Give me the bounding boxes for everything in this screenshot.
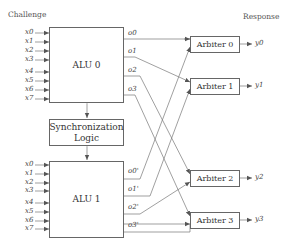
alu1-box: ALU 1 bbox=[49, 161, 124, 238]
alu1-input-x0: x0 bbox=[25, 161, 33, 168]
alu1-output-o3p: o3' bbox=[128, 222, 139, 229]
alu0-input-x1: x1 bbox=[25, 38, 33, 45]
arbiter-1: Arbiter 1 bbox=[190, 78, 240, 95]
arbiter-0: Arbiter 0 bbox=[190, 36, 240, 53]
sync-label-line1: Synchronization bbox=[49, 122, 123, 133]
sync-logic-box: Synchronization Logic bbox=[49, 119, 124, 146]
alu1-input-x1: x1 bbox=[25, 170, 33, 177]
alu1-input-x5: x5 bbox=[25, 208, 33, 215]
wiring bbox=[0, 0, 289, 250]
alu1-input-x6: x6 bbox=[25, 217, 33, 224]
alu1-input-x3: x3 bbox=[25, 187, 33, 194]
alu0-input-x6: x6 bbox=[25, 86, 33, 93]
response-y2: y2 bbox=[255, 174, 263, 181]
alu0-input-x2: x2 bbox=[25, 47, 33, 54]
alu1-input-x2: x2 bbox=[25, 179, 33, 186]
alu0-box: ALU 0 bbox=[49, 27, 124, 103]
sync-label-line2: Logic bbox=[74, 133, 99, 144]
response-header: Response bbox=[243, 12, 279, 21]
response-y0: y0 bbox=[255, 40, 263, 47]
alu0-output-o1: o1 bbox=[128, 48, 137, 55]
alu0-input-x4: x4 bbox=[25, 68, 33, 75]
alu1-label: ALU 1 bbox=[72, 194, 100, 205]
alu0-input-x0: x0 bbox=[25, 29, 33, 36]
response-y1: y1 bbox=[255, 82, 263, 89]
alu1-output-o1p: o1' bbox=[128, 186, 139, 193]
challenge-header: Challenge bbox=[8, 10, 46, 19]
arbiter-2: Arbiter 2 bbox=[190, 170, 240, 187]
alu0-output-o2: o2 bbox=[128, 67, 137, 74]
alu0-input-x5: x5 bbox=[25, 77, 33, 84]
alu0-output-o0: o0 bbox=[128, 30, 137, 37]
alu0-output-o3: o3 bbox=[128, 86, 137, 93]
alu0-input-x3: x3 bbox=[25, 56, 33, 63]
alu1-output-o2p: o2' bbox=[128, 204, 139, 211]
arbiter-3: Arbiter 3 bbox=[190, 212, 240, 229]
alu1-input-x7: x7 bbox=[25, 225, 33, 232]
alu1-output-o0p: o0' bbox=[128, 168, 139, 175]
alu0-input-x7: x7 bbox=[25, 95, 33, 102]
alu1-input-x4: x4 bbox=[25, 199, 33, 206]
alu0-label: ALU 0 bbox=[72, 60, 100, 71]
response-y3: y3 bbox=[255, 216, 263, 223]
